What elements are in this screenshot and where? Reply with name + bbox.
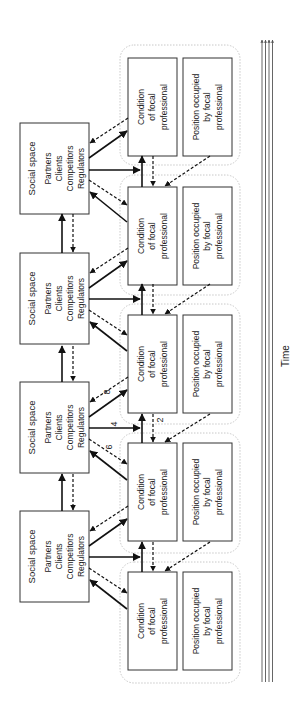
social-space-title: Social space (26, 401, 37, 455)
position-label-line: professional (214, 213, 224, 259)
position-label-line: by focal (202, 221, 212, 250)
position-label-line: Position occupied (191, 330, 201, 397)
social-space-item: Regulators (76, 278, 86, 319)
social-space-item: Regulators (76, 536, 86, 577)
position-label-line: professional (214, 598, 224, 644)
position-label-line: by focal (202, 349, 212, 378)
condition-label-line: Condition (136, 603, 146, 639)
social-space-item: Regulators (76, 407, 86, 448)
social-space-title: Social space (26, 272, 37, 326)
social-space-title: Social space (26, 142, 37, 196)
social-space-item: Partners (43, 152, 53, 184)
position-label-line: Position occupied (191, 202, 201, 269)
condition-label-line: Condition (136, 218, 146, 254)
condition-label-line: of focal (147, 350, 157, 378)
social-space-item: Clients (54, 544, 64, 570)
position-label-line: Position occupied (191, 458, 201, 525)
condition-label-line: Condition (136, 346, 146, 382)
condition-boxes: Conditionof focalprofessionalConditionof… (128, 58, 177, 670)
condition-label-line: professional (159, 469, 169, 515)
condition-label-line: professional (159, 598, 169, 644)
condition-label-line: professional (159, 84, 169, 130)
position-label-line: by focal (202, 92, 212, 121)
position-label-line: professional (214, 469, 224, 515)
condition-label-line: of focal (147, 93, 157, 121)
position-label-line: professional (214, 84, 224, 130)
social-space-boxes: Social spacePartnersClientsCompetitorsRe… (20, 123, 89, 602)
social-space-item: Competitors (65, 534, 75, 580)
condition-label-line: professional (159, 341, 169, 387)
time-axis: Time (262, 40, 291, 682)
condition-label-line: professional (159, 213, 169, 259)
social-space-item: Regulators (76, 148, 86, 189)
position-label-line: Position occupied (191, 587, 201, 654)
position-label-line: Position occupied (191, 73, 201, 140)
arrow-label-2: 2 (155, 417, 165, 422)
condition-label-line: of focal (147, 222, 157, 250)
social-space-item: Clients (54, 415, 64, 441)
arrow-label-8: 8 (102, 389, 112, 394)
position-label-line: professional (214, 341, 224, 387)
social-space-item: Partners (43, 282, 53, 314)
social-space-item: Competitors (65, 405, 75, 451)
social-space-item: Clients (54, 286, 64, 312)
arrow-label-4: 4 (109, 421, 119, 426)
social-space-item: Competitors (65, 146, 75, 192)
social-space-item: Clients (54, 156, 64, 182)
condition-label-line: of focal (147, 478, 157, 506)
condition-label-line: Condition (136, 89, 146, 125)
condition-label-line: of focal (147, 607, 157, 635)
position-boxes: Position occupiedby focalprofessionalPos… (183, 58, 232, 670)
position-label-line: by focal (202, 477, 212, 506)
social-space-item: Partners (43, 411, 53, 443)
social-space-item: Partners (43, 540, 53, 572)
time-label: Time (280, 345, 291, 367)
professional-condition-diagram: Conditionof focalprofessionalConditionof… (0, 0, 291, 707)
social-space-title: Social space (26, 530, 37, 584)
social-space-item: Competitors (65, 276, 75, 322)
position-label-line: by focal (202, 606, 212, 635)
condition-label-line: Condition (136, 474, 146, 510)
arrow-label-6: 6 (104, 444, 114, 449)
